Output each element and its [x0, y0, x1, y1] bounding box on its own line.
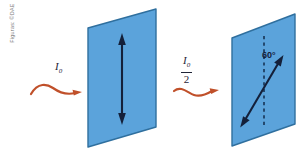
incident-intensity-label: I0: [55, 60, 62, 75]
transmitted-light-wave: [174, 88, 219, 95]
transmitted-intensity-denominator: 2: [181, 73, 192, 85]
transmitted-wave-arrowhead: [210, 88, 219, 94]
figure-credit: Figuras: ©DAE: [9, 0, 15, 49]
figure-canvas: [0, 0, 302, 160]
polarizer-angle-label: 60°: [262, 50, 276, 60]
transmitted-intensity-label: I0 2: [181, 55, 192, 85]
incident-wave-squiggle: [31, 85, 75, 94]
transmitted-intensity-numerator: I0: [181, 55, 192, 71]
polarization-figure: Figuras: ©DAE I0 I0 2 60°: [0, 0, 302, 160]
incident-light-wave: [31, 85, 82, 96]
second-polarizer: [232, 14, 295, 146]
incident-wave-arrowhead: [73, 90, 83, 96]
first-polarizer: [88, 9, 156, 147]
transmitted-intensity-subscript: 0: [187, 61, 191, 69]
incident-intensity-subscript: 0: [59, 67, 63, 75]
transmitted-wave-squiggle: [174, 89, 212, 96]
